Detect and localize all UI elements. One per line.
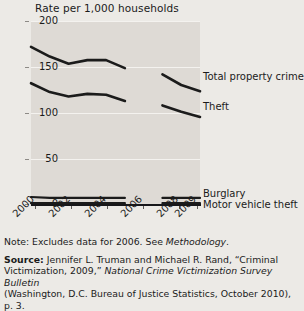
note-line: Note: Excludes data for 2006. See Method… xyxy=(4,236,296,248)
note-label: Note: xyxy=(4,236,29,247)
source-label: Source: xyxy=(4,254,44,265)
series-path-burglary-seg0 xyxy=(31,197,125,198)
note-text-after: . xyxy=(226,236,229,247)
note-italic-methodology: Methodology xyxy=(166,236,226,247)
legend-label-total-property-crime: Total property crime xyxy=(203,71,304,82)
source-line2-plain: Victimization, 2009,” xyxy=(4,265,104,276)
series-lines xyxy=(0,0,299,232)
series-path-theft-seg0 xyxy=(31,83,125,101)
legend-label-motor-vehicle-theft: Motor vehicle theft xyxy=(203,199,298,210)
figure-notes: Note: Excludes data for 2006. See Method… xyxy=(4,236,296,311)
source-line: Source: Jennifer L. Truman and Michael R… xyxy=(4,254,296,311)
chart-area: Rate per 1,000 households 200 150 100 50… xyxy=(0,0,299,232)
legend-label-theft: Theft xyxy=(203,101,229,112)
series-path-theft-seg1 xyxy=(162,105,200,117)
note-text-before: Excludes data for 2006. See xyxy=(29,236,166,247)
source-line3: (Washington, D.C. Bureau of Justice Stat… xyxy=(4,288,291,310)
series-path-total-property-crime-seg0 xyxy=(31,47,125,68)
series-path-total-property-crime-seg1 xyxy=(162,74,200,91)
legend-label-burglary: Burglary xyxy=(203,188,245,199)
source-line1: Jennifer L. Truman and Michael R. Rand, … xyxy=(44,254,278,265)
